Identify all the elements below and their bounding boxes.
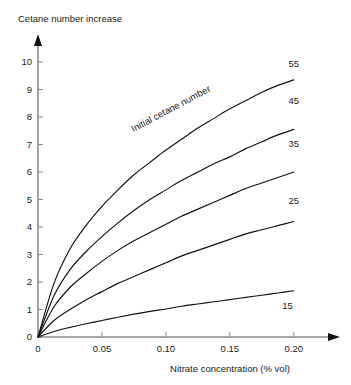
series-label-55: 55	[289, 58, 300, 69]
series-curves	[38, 80, 294, 337]
chart-title: Cetane number increase	[18, 13, 122, 24]
x-tick-label: 0.15	[221, 343, 240, 354]
y-tick-label: 6	[27, 166, 32, 177]
x-tick-label: 0.20	[285, 343, 304, 354]
series-curve-35	[38, 172, 294, 337]
series-label-25: 25	[289, 195, 300, 206]
series-curve-15	[38, 291, 294, 337]
y-tick-label: 5	[27, 194, 32, 205]
y-axis-ticks: 012345678910	[21, 56, 43, 342]
x-axis-arrowhead	[328, 333, 340, 341]
x-tick-label: 0.05	[93, 343, 112, 354]
series-label-35: 35	[289, 138, 300, 149]
y-tick-label: 8	[27, 111, 32, 122]
y-tick-label: 7	[27, 139, 32, 150]
x-tick-label: 0.10	[157, 343, 176, 354]
y-tick-label: 2	[27, 276, 32, 287]
series-curve-55	[38, 80, 294, 337]
chart-container: Cetane number increase 012345678910 00.0…	[0, 0, 351, 385]
series-labels: 5545352515	[282, 58, 299, 311]
x-axis-ticks: 00.050.100.150.20	[35, 332, 303, 354]
y-tick-label: 10	[21, 56, 32, 67]
series-label-15: 15	[282, 300, 293, 311]
y-tick-label: 9	[27, 84, 32, 95]
series-label-45: 45	[289, 95, 300, 106]
y-tick-label: 1	[27, 304, 32, 315]
y-tick-label: 4	[27, 221, 32, 232]
cetane-number-line-chart: Cetane number increase 012345678910 00.0…	[0, 0, 351, 385]
y-tick-label: 3	[27, 249, 32, 260]
x-axis-title: Nitrate concentration (% vol)	[170, 363, 290, 374]
y-tick-label: 0	[27, 331, 32, 342]
x-tick-label: 0	[35, 343, 40, 354]
y-axis-arrowhead	[34, 34, 42, 46]
